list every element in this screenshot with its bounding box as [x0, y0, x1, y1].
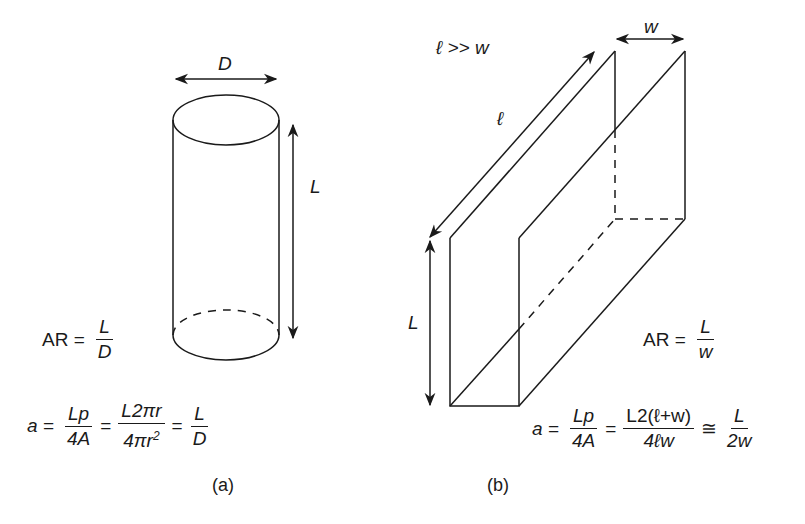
- cylinder-shape: [173, 95, 279, 360]
- a-equation-a: a = Lp 4A = L2πr 4πr2 = L D: [27, 400, 213, 452]
- fraction-3: L D: [190, 403, 210, 450]
- caption-b: (b): [487, 475, 509, 496]
- fraction-2: L2πr 4πr2: [118, 400, 164, 452]
- depth-label: ℓ: [497, 108, 503, 130]
- condition-label: ℓ >> w: [436, 37, 489, 59]
- diameter-label: D: [218, 53, 232, 75]
- ar-lhs: AR =: [42, 329, 85, 351]
- fraction-1: Lp 4A: [64, 403, 93, 450]
- a-equation-b: a = Lp 4A = L2(ℓ+w) 4ℓw ≅ L 2w: [532, 405, 758, 452]
- a-lhs-b: a =: [532, 418, 559, 440]
- depth-arrow: [430, 52, 594, 237]
- ar-fraction-b: L w: [696, 316, 716, 363]
- caption-a: (a): [212, 475, 234, 496]
- ar-fraction: L D: [95, 316, 115, 363]
- a-lhs: a =: [27, 415, 54, 437]
- fraction-2-b: L2(ℓ+w) 4ℓw: [623, 405, 694, 452]
- length-label-a: L: [310, 176, 321, 198]
- fraction-3-b: L 2w: [724, 405, 754, 452]
- aspect-ratio-equation-a: AR = L D: [42, 316, 119, 363]
- length-label-b: L: [408, 312, 419, 334]
- width-label: w: [644, 16, 658, 38]
- aspect-ratio-equation-b: AR = L w: [643, 316, 720, 363]
- fraction-1-b: Lp 4A: [569, 405, 598, 452]
- ar-lhs-b: AR =: [643, 329, 686, 351]
